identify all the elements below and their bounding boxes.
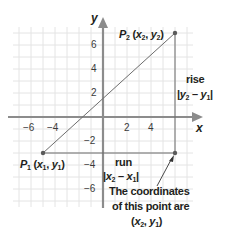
point-p2-label: P2 (x2, y2): [119, 29, 164, 41]
y-axis-arrow-icon: [98, 17, 108, 28]
point-corner-dot: [173, 151, 177, 155]
x-axis-label: x: [196, 122, 203, 134]
x-tick-label: 4: [148, 123, 154, 133]
p1-coords: (x1, y1): [33, 158, 64, 170]
run-label: run: [115, 157, 132, 168]
point-p1-label: P1 (x1, y1): [20, 159, 65, 171]
note-pointer-line: [157, 158, 172, 186]
x-tick-label: 2: [124, 123, 130, 133]
y-tick-label: −4: [84, 160, 95, 170]
rise-label: rise: [186, 74, 204, 85]
y-axis-label: y: [91, 12, 98, 24]
corner-note-line2: of this point are: [112, 201, 189, 212]
x-tick-label: −6: [23, 123, 34, 133]
corner-note-line3: (x2, y1): [131, 216, 162, 228]
point-p1-dot: [41, 151, 45, 155]
note-pointer-arrow-icon: [169, 155, 174, 162]
corner-note-line1: The coordinates: [109, 186, 189, 197]
y-tick-label: −2: [84, 136, 95, 146]
x-tick-label: −4: [47, 123, 58, 133]
y-tick-label: 6: [91, 40, 97, 50]
point-p2-dot: [173, 31, 177, 35]
y-tick-label: −6: [84, 184, 95, 194]
rise-formula: |y2 – y1|: [177, 89, 213, 101]
p2-coords: (x2, y2): [132, 28, 163, 40]
y-tick-label: 2: [91, 88, 97, 98]
run-formula: |x2 – x1|: [103, 171, 139, 183]
y-tick-label: 4: [91, 64, 97, 74]
